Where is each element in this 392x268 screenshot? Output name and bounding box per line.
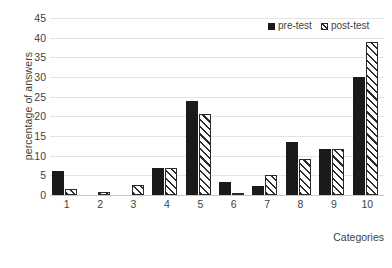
bar-post-test-5 <box>199 114 211 195</box>
legend-swatch-post-test-icon <box>321 23 328 30</box>
bar-pre-test-6 <box>219 182 231 195</box>
y-axis-tick-label: 45 <box>24 13 46 23</box>
x-axis-tick-labels: 12345678910 <box>50 198 384 214</box>
gridline <box>50 195 384 196</box>
bar-group <box>217 18 250 195</box>
bar-pre-test-10 <box>353 77 365 195</box>
plot-area <box>50 18 384 195</box>
bar-pre-test-1 <box>52 171 64 195</box>
legend-label-post-test: post-test <box>331 21 369 31</box>
legend-item-pre-test: pre-test <box>268 21 312 31</box>
bar-group <box>351 18 384 195</box>
bar-post-test-7 <box>265 175 277 195</box>
bar-group <box>150 18 183 195</box>
y-axis-tick-label: 15 <box>24 131 46 141</box>
y-axis-tick-labels: 051015202530354045 <box>24 13 46 195</box>
y-axis-tick-label: 40 <box>24 33 46 43</box>
x-axis-tick-label: 9 <box>319 198 349 211</box>
x-axis-tick-label: 2 <box>85 198 115 211</box>
bar-post-test-8 <box>299 159 311 195</box>
y-axis-tick-label: 10 <box>24 151 46 161</box>
bar-pre-test-9 <box>319 149 331 195</box>
bar-group <box>184 18 217 195</box>
bar-post-test-2 <box>98 192 110 195</box>
bar-post-test-9 <box>332 149 344 195</box>
bar-group <box>284 18 317 195</box>
legend-item-post-test: post-test <box>321 21 369 31</box>
x-axis-title: Categories <box>333 231 384 243</box>
bar-group <box>250 18 283 195</box>
bar-post-test-3 <box>132 185 144 195</box>
x-axis-tick-label: 4 <box>152 198 182 211</box>
y-axis-tick-label: 20 <box>24 111 46 121</box>
x-axis-tick-label: 10 <box>352 198 382 211</box>
legend-swatch-pre-test-icon <box>268 23 275 30</box>
x-axis-tick-label: 5 <box>185 198 215 211</box>
bar-group <box>83 18 116 195</box>
bar-pre-test-5 <box>186 101 198 195</box>
bar-post-test-1 <box>65 189 77 195</box>
bar-group <box>317 18 350 195</box>
bar-pre-test-4 <box>152 168 164 195</box>
x-axis-tick-label: 7 <box>252 198 282 211</box>
bar-chart: percentage of answers 051015202530354045… <box>0 0 392 268</box>
bar-post-test-4 <box>165 168 177 195</box>
bar-group <box>117 18 150 195</box>
y-axis-tick-label: 30 <box>24 72 46 82</box>
y-axis-tick-label: 25 <box>24 92 46 102</box>
legend-label-pre-test: pre-test <box>278 21 312 31</box>
bar-post-test-6 <box>232 193 244 195</box>
x-axis-tick-label: 8 <box>286 198 316 211</box>
y-axis-tick-label: 5 <box>24 170 46 180</box>
x-axis-tick-label: 6 <box>219 198 249 211</box>
chart-legend: pre-test post-test <box>268 21 369 31</box>
x-axis-tick-label: 1 <box>52 198 82 211</box>
y-axis-tick-label: 35 <box>24 52 46 62</box>
x-axis-tick-label: 3 <box>119 198 149 211</box>
bar-pre-test-8 <box>286 142 298 195</box>
y-axis-tick-label: 0 <box>24 190 46 200</box>
bars-layer <box>50 18 384 195</box>
bar-group <box>50 18 83 195</box>
bar-post-test-10 <box>366 42 378 195</box>
bar-pre-test-7 <box>252 186 264 195</box>
